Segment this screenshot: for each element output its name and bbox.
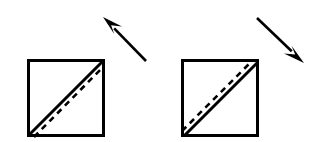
figure-container (0, 0, 313, 142)
motion-diagram-svg (0, 0, 313, 142)
